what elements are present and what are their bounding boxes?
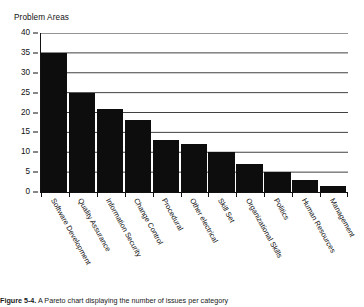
x-axis-category-label: Skill Set	[216, 197, 236, 224]
y-tick-mark	[33, 192, 38, 193]
figure-root: Problem Areas 0510152025303540 Software …	[0, 0, 364, 307]
chart-title: Problem Areas	[14, 13, 69, 22]
y-tick-label: 15	[21, 128, 30, 136]
y-tick-mark	[33, 112, 38, 113]
bar	[236, 164, 262, 192]
bar	[181, 144, 207, 192]
x-axis-labels: Software DevelopmentQuality AssuranceInf…	[41, 197, 364, 292]
x-axis-category-label: Other electrical	[188, 197, 219, 244]
bar	[97, 109, 123, 192]
bar	[41, 53, 67, 192]
y-tick-label: 35	[21, 49, 30, 57]
y-tick-label: 10	[21, 148, 30, 156]
x-axis-category-label: Management	[328, 197, 356, 239]
y-tick-mark	[33, 72, 38, 73]
y-axis: 0510152025303540	[0, 33, 41, 192]
bar	[292, 180, 318, 192]
bar	[125, 120, 151, 192]
y-tick-mark	[33, 92, 38, 93]
y-tick-label: 30	[21, 69, 30, 77]
caption-text: A Pareto chart displaying the number of …	[38, 296, 228, 305]
bars-layer	[41, 33, 348, 192]
x-axis-category-label: Procedural	[160, 197, 184, 232]
x-axis-category-label: Politics	[272, 197, 290, 221]
y-tick-label: 40	[21, 29, 30, 37]
bar	[208, 152, 234, 192]
bar	[153, 140, 179, 192]
y-tick-mark	[33, 52, 38, 53]
figure-caption: Figure 5-4. A Pareto chart displaying th…	[0, 296, 364, 307]
y-tick-label: 0	[25, 188, 30, 196]
y-tick-label: 5	[25, 168, 30, 176]
y-tick-mark	[33, 33, 38, 34]
y-tick-label: 25	[21, 89, 30, 97]
y-tick-mark	[33, 152, 38, 153]
x-axis-category-label: Change Control	[132, 197, 164, 246]
bar	[69, 93, 95, 192]
y-tick-label: 20	[21, 108, 30, 116]
bar	[264, 172, 290, 192]
y-tick-mark	[33, 132, 38, 133]
caption-label: Figure 5-4.	[0, 296, 36, 305]
y-tick-mark	[33, 172, 38, 173]
